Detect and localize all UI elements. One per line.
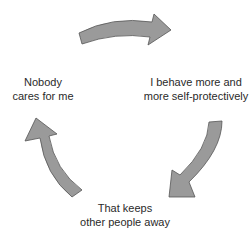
- node-nobody-cares: Nobody cares for me: [8, 75, 78, 103]
- node-line: I behave more and: [140, 75, 251, 89]
- node-line: cares for me: [8, 89, 78, 103]
- node-line: That keeps: [70, 201, 180, 215]
- node-line: other people away: [70, 215, 180, 229]
- cycle-diagram: Nobody cares for me I behave more and mo…: [0, 0, 251, 234]
- node-line: more self-protectively: [140, 89, 251, 103]
- arrow-right-icon: [169, 121, 222, 197]
- arrow-top-icon: [79, 14, 171, 45]
- arrow-left-icon: [25, 118, 82, 197]
- node-self-protective: I behave more and more self-protectively: [140, 75, 251, 103]
- node-keeps-people-away: That keeps other people away: [70, 201, 180, 229]
- arrows-layer: [0, 0, 251, 234]
- node-line: Nobody: [8, 75, 78, 89]
